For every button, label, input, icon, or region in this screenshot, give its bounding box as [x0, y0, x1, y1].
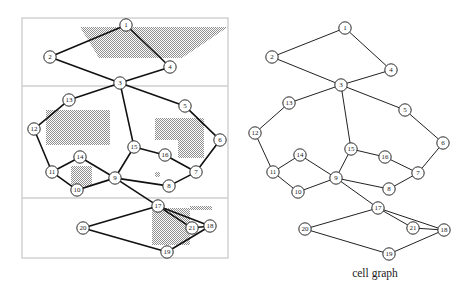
layout-node-label-2: 2	[48, 53, 52, 61]
layout-node-12: 12	[28, 123, 40, 135]
layout-node-label-1: 1	[124, 21, 128, 29]
layout-node-label-9: 9	[113, 174, 117, 182]
shaded-region-small-square-near-10	[71, 166, 92, 186]
layout-node-1: 1	[120, 19, 132, 31]
layout-edge-21-18	[198, 227, 204, 228]
layout-node-10: 10	[71, 184, 83, 196]
cell-graph-node-label-14: 14	[297, 151, 305, 159]
layout-node-label-15: 15	[131, 143, 139, 151]
layout-node-label-21: 21	[189, 224, 197, 232]
cell-graph-node-5: 5	[399, 104, 411, 116]
cell-graph-node-label-8: 8	[387, 185, 391, 193]
cell-graph-node-1: 1	[339, 22, 351, 34]
cell-graph-node-7: 7	[412, 167, 424, 179]
layout-node-label-12: 12	[31, 125, 39, 133]
layout-node-label-17: 17	[155, 202, 163, 210]
cell-graph-node-label-15: 15	[348, 145, 356, 153]
cell-graph-node-label-3: 3	[339, 81, 343, 89]
layout-node-11: 11	[46, 166, 58, 178]
cell-graph-node-2: 2	[266, 51, 278, 63]
layout-node-label-16: 16	[162, 151, 170, 159]
cell-graph-node-4: 4	[385, 64, 397, 76]
cell-graph-node-11: 11	[267, 166, 279, 178]
layout-node-label-14: 14	[77, 153, 85, 161]
layout-node-17: 17	[152, 200, 164, 212]
figure-svg: 123456789101112131415161718192021 123456…	[0, 0, 476, 293]
cell-graph-node-label-17: 17	[375, 204, 383, 212]
layout-node-label-13: 13	[66, 96, 74, 104]
layout-node-20: 20	[77, 222, 89, 234]
layout-node-label-10: 10	[74, 186, 82, 194]
layout-node-label-20: 20	[80, 224, 88, 232]
cell-graph-node-label-18: 18	[441, 226, 449, 234]
layout-node-13: 13	[63, 94, 75, 106]
layout-node-label-3: 3	[118, 79, 122, 87]
layout-node-label-6: 6	[218, 136, 222, 144]
layout-node-2: 2	[44, 51, 56, 63]
layout-node-8: 8	[163, 180, 175, 192]
layout-node-14: 14	[74, 151, 86, 163]
layout-node-16: 16	[159, 149, 171, 161]
shaded-region-bottom-strip-near-21	[190, 206, 212, 210]
cell-graph-node-18: 18	[438, 224, 450, 236]
cell-graph-node-21: 21	[407, 222, 419, 234]
cell-graph-node-label-11: 11	[270, 168, 277, 176]
layout-node-6: 6	[214, 134, 226, 146]
layout-node-3: 3	[114, 77, 126, 89]
cell-graph-node-10: 10	[292, 186, 304, 198]
cell-graph-node-label-6: 6	[441, 139, 445, 147]
layout-node-label-4: 4	[168, 63, 172, 71]
cell-graph-node-label-10: 10	[295, 188, 303, 196]
layout-node-4: 4	[164, 61, 176, 73]
layout-node-19: 19	[161, 246, 173, 258]
layout-node-label-5: 5	[183, 102, 187, 110]
cell-graph-node-14: 14	[294, 149, 306, 161]
cell-graph-node-label-21: 21	[410, 224, 418, 232]
layout-node-label-11: 11	[49, 168, 56, 176]
cell-graph-node-19: 19	[383, 248, 395, 260]
layout-node-21: 21	[186, 222, 198, 234]
layout-node-label-18: 18	[207, 222, 215, 230]
layout-node-5: 5	[179, 100, 191, 112]
cell-graph-node-label-16: 16	[382, 153, 390, 161]
cell-graph-caption: cell graph	[352, 267, 398, 280]
cell-graph-node-label-13: 13	[286, 99, 294, 107]
cell-graph-node-label-4: 4	[389, 66, 393, 74]
cell-graph-node-label-5: 5	[403, 106, 407, 114]
cell-graph-node-9: 9	[330, 172, 342, 184]
cell-graph-node-17: 17	[372, 202, 384, 214]
layout-node-15: 15	[128, 141, 140, 153]
cell-graph-node-6: 6	[437, 137, 449, 149]
cell-graph-node-label-20: 20	[302, 225, 310, 233]
cell-graph-node-13: 13	[283, 97, 295, 109]
layout-node-label-7: 7	[194, 168, 198, 176]
cell-graph-node-label-19: 19	[386, 250, 394, 258]
cell-graph-node-label-1: 1	[343, 24, 347, 32]
cell-graph-node-20: 20	[299, 223, 311, 235]
layout-node-18: 18	[204, 220, 216, 232]
shaded-region-tiny-dot-near-8	[155, 172, 160, 177]
cell-graph-node-label-12: 12	[252, 129, 260, 137]
cell-graph-node-15: 15	[345, 143, 357, 155]
cell-graph-node-label-7: 7	[416, 169, 420, 177]
cell-graph-node-3: 3	[335, 79, 347, 91]
cell-graph-node-label-9: 9	[334, 174, 338, 182]
layout-node-9: 9	[109, 172, 121, 184]
cell-graph-node-12: 12	[249, 127, 261, 139]
cell-graph-node-16: 16	[379, 151, 391, 163]
layout-node-7: 7	[190, 166, 202, 178]
cell-graph-node-8: 8	[383, 183, 395, 195]
figure-container: 123456789101112131415161718192021 123456…	[0, 0, 476, 293]
shaded-region-mid-left-rect	[46, 110, 110, 145]
layout-node-label-8: 8	[167, 182, 171, 190]
cell-graph-node-label-2: 2	[270, 53, 274, 61]
layout-node-label-19: 19	[164, 248, 172, 256]
figure-background	[0, 0, 476, 293]
